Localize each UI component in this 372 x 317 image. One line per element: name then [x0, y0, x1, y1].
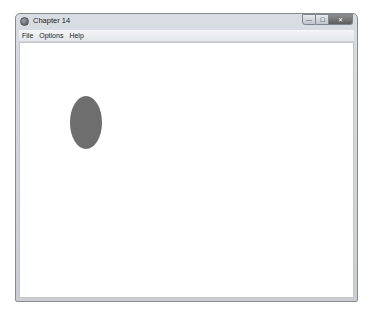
close-icon: ✕ [338, 16, 343, 23]
close-button[interactable]: ✕ [329, 14, 353, 25]
minimize-button[interactable]: — [302, 14, 316, 25]
menu-file[interactable]: File [19, 32, 36, 39]
app-window: Chapter 14 — ☐ ✕ File Options Help [15, 13, 358, 302]
menu-options[interactable]: Options [36, 32, 66, 39]
menu-bar: File Options Help [19, 30, 354, 42]
title-bar[interactable]: Chapter 14 — ☐ ✕ [16, 14, 357, 30]
window-controls: — ☐ ✕ [302, 14, 353, 25]
maximize-icon: ☐ [320, 16, 325, 23]
minimize-icon: — [306, 17, 312, 23]
drawing-canvas[interactable] [19, 42, 354, 298]
menu-help[interactable]: Help [66, 32, 86, 39]
app-icon[interactable] [20, 17, 29, 26]
window-title: Chapter 14 [33, 16, 70, 25]
ellipse-shape [70, 96, 102, 149]
maximize-button[interactable]: ☐ [316, 14, 329, 25]
